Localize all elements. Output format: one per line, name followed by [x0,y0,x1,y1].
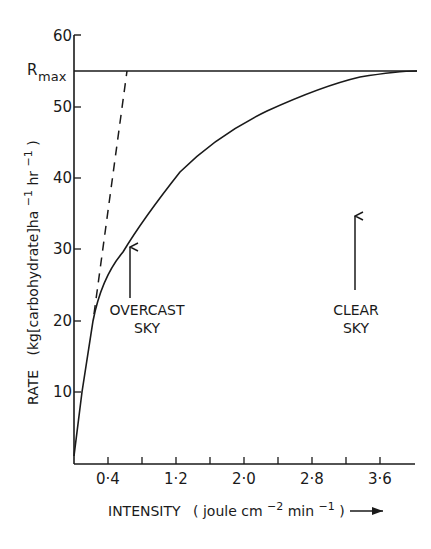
y-tick-50: 50 [53,98,72,116]
y-title-hr: hr [25,171,41,186]
y-tick-30: 30 [53,240,72,258]
clear-label-line1: CLEAR [333,302,379,318]
x-title-min: min [288,503,314,519]
x-tick-2.0: 2·0 [232,470,256,488]
svg-text:INTENSITY ( joule cm: INTENSITY ( joule cm −2 min −1 ) [108,497,345,519]
y-axis-title: RATE (kg[carbohydrate]ha −1 hr −1 ) [19,140,41,405]
y-title-close: ) [25,140,41,145]
initial-slope-dashed-line [94,71,127,314]
clear-sky-annotation: CLEAR SKY [333,216,379,336]
svg-text:RATE (kg[carbohydrate]ha: RATE (kg[carbohydrate]ha −1 hr −1 ) [19,140,41,405]
x-tick-1.2: 1·2 [164,470,188,488]
x-ticks [108,457,380,464]
x-tick-3.6: 3·6 [368,470,392,488]
rmax-subscript: max [38,69,67,84]
y-title-main: RATE [25,370,41,405]
y-title-exp1: −1 [22,190,35,206]
y-title-units: (kg[carbohydrate]ha [25,211,41,356]
y-tick-10: 10 [53,383,72,401]
x-title-close: ) [339,503,344,519]
rmax-label: R max [27,61,67,84]
x-tick-2.8: 2·8 [300,470,324,488]
x-tick-labels: 0·4 1·2 2·0 2·8 3·6 [96,470,392,488]
x-title-units: ( joule cm [193,503,263,519]
overcast-label-line2: SKY [134,320,161,336]
x-tick-0.4: 0·4 [96,470,120,488]
rate-curve [74,71,417,456]
x-title-exp2: −1 [319,500,335,513]
rate-vs-intensity-chart: 10 20 30 40 50 60 R max 0·4 1·2 2·0 2·8 … [0,0,431,549]
overcast-sky-annotation: OVERCAST SKY [109,247,184,336]
y-tick-20: 20 [53,312,72,330]
x-title-exp1: −2 [267,500,283,513]
y-title-exp2: −1 [22,150,35,166]
clear-label-line2: SKY [343,320,370,336]
y-ticks [74,107,81,392]
y-tick-40: 40 [53,169,72,187]
y-tick-60: 60 [53,27,72,45]
rmax-main: R [27,61,37,79]
overcast-label-line1: OVERCAST [109,302,184,318]
x-title-main: INTENSITY [108,503,181,519]
x-axis-title: INTENSITY ( joule cm −2 min −1 ) [108,497,383,519]
